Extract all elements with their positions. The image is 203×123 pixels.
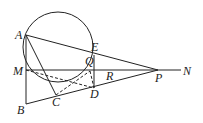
geometry-diagram: A M B C D E Q R P N [0, 0, 203, 123]
label-E: E [90, 40, 99, 54]
label-R: R [105, 69, 114, 83]
dashed-QD [90, 71, 94, 88]
label-B: B [17, 103, 25, 117]
label-Q: Q [85, 54, 94, 68]
label-P: P [154, 71, 163, 85]
label-M: M [12, 64, 24, 78]
label-D: D [89, 87, 99, 101]
label-A: A [14, 28, 23, 42]
dashed-MD [26, 70, 94, 88]
segment-AC [26, 35, 56, 95]
label-N: N [182, 64, 192, 78]
label-C: C [52, 95, 61, 109]
